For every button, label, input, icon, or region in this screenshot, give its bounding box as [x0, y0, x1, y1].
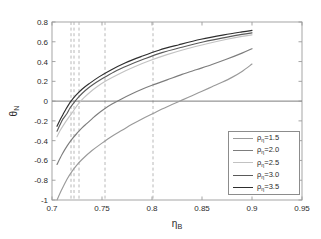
legend-item-label: ρη=2.5: [257, 159, 279, 168]
legend-item: ρη=2.5: [229, 157, 299, 169]
x-axis-label-subscript: B: [177, 222, 182, 231]
y-tick-label: -0.2: [20, 116, 48, 125]
legend-rho-value: =1.5: [264, 133, 279, 142]
legend-line-swatch: [233, 150, 253, 151]
y-tick-label: -0.6: [20, 156, 48, 165]
y-tick-label: 0.4: [20, 57, 48, 66]
legend-rho-value: =2.5: [264, 158, 279, 167]
x-tick-label: 0.8: [146, 204, 157, 213]
legend-line-swatch: [233, 138, 253, 139]
x-axis-label: ηB: [172, 218, 182, 231]
y-axis-label-main: θ: [8, 111, 19, 117]
legend-item: ρη=2.0: [229, 144, 299, 156]
legend-line-swatch: [233, 162, 253, 163]
x-tick-label: 0.75: [94, 204, 110, 213]
legend-rho-value: =2.0: [264, 145, 279, 154]
legend-item-label: ρη=3.5: [257, 183, 279, 192]
x-tick-label: 0.95: [294, 204, 310, 213]
y-tick-label: 0.2: [20, 77, 48, 86]
x-tick-label: 0.7: [46, 204, 57, 213]
legend-item-label: ρη=3.0: [257, 171, 279, 180]
legend-line-swatch: [233, 187, 253, 188]
legend-item-label: ρη=2.0: [257, 146, 279, 155]
legend-item: ρη=3.5: [229, 182, 299, 194]
legend-item: ρη=3.0: [229, 169, 299, 181]
data-curves: [57, 30, 252, 200]
legend-box: ρη=1.5ρη=2.0ρη=2.5ρη=3.0ρη=3.5: [228, 131, 300, 195]
curve-series-2: [57, 49, 252, 165]
y-tick-label: -0.8: [20, 176, 48, 185]
figure-canvas: 0.70.750.80.850.90.95 0.80.60.40.20-0.2-…: [0, 0, 321, 239]
y-tick-label: -1: [20, 196, 48, 205]
vertical-dashed-lines: [71, 22, 153, 200]
legend-item-label: ρη=1.5: [257, 134, 279, 143]
x-tick-label: 0.85: [194, 204, 210, 213]
x-tick-label: 0.9: [246, 204, 257, 213]
legend-rho-value: =3.0: [264, 170, 279, 179]
y-tick-label: 0.8: [20, 18, 48, 27]
y-tick-label: -0.4: [20, 136, 48, 145]
y-tick-label: 0: [20, 97, 48, 106]
y-axis-label-subscript: N: [12, 106, 21, 111]
y-axis-label: θN: [8, 106, 21, 117]
legend-rho-value: =3.5: [264, 182, 279, 191]
curve-series-5: [57, 30, 252, 126]
legend-item: ρη=1.5: [229, 132, 299, 144]
y-tick-label: 0.6: [20, 37, 48, 46]
legend-line-swatch: [233, 175, 253, 176]
